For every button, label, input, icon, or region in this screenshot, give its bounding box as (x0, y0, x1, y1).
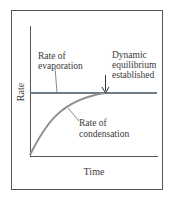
equilibrium-label-line1: Dynamic (112, 50, 147, 60)
condensation-leader (68, 108, 79, 121)
condensation-label-line1: Rate of (79, 118, 108, 128)
evaporation-label-line2: evaporation (38, 61, 83, 71)
evaporation-leader (55, 68, 57, 92)
x-axis-label: Time (84, 166, 105, 177)
frame-border (12, 11, 163, 190)
equilibrium-label-line3: established (112, 70, 154, 80)
equilibrium-label-line2: equilibrium (112, 60, 157, 70)
y-axis-label: Rate (15, 82, 26, 101)
chart-svg: Rate Time Rate of evaporation Rate of co… (0, 0, 176, 197)
chart-figure: Rate Time Rate of evaporation Rate of co… (0, 0, 176, 197)
evaporation-label-line1: Rate of (38, 51, 67, 61)
condensation-label-line2: condensation (79, 129, 129, 139)
